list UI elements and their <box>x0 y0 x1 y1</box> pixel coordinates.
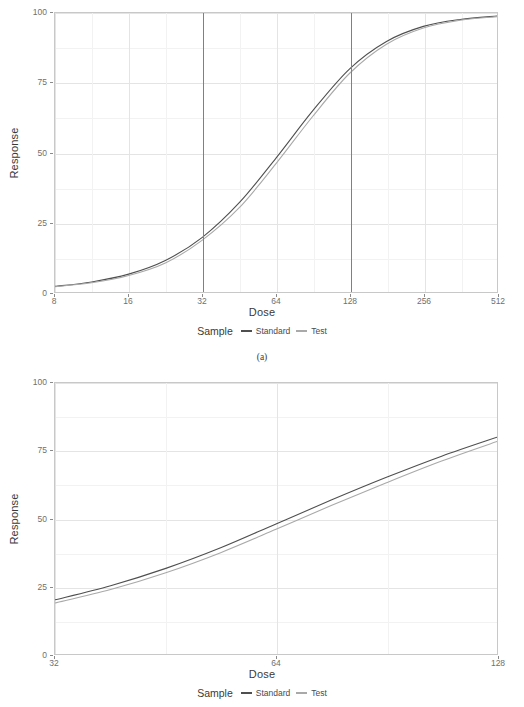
y-tick-label: 100 <box>33 377 47 387</box>
x-tick-label: 16 <box>123 296 132 306</box>
x-tick-label: 8 <box>52 296 57 306</box>
y-tick-mark <box>50 82 53 83</box>
legend-item-standard[interactable]: Standard <box>241 688 291 698</box>
panel-a-y-tick-labels: 0255075100 <box>0 12 54 293</box>
legend-item-label: Test <box>311 326 327 336</box>
legend-item-test[interactable]: Test <box>296 688 327 698</box>
y-tick-mark <box>50 519 53 520</box>
panel-a: Response 0255075100 8163264128256512 Dos… <box>0 0 524 352</box>
x-tick-label: 64 <box>271 658 280 668</box>
y-tick-mark <box>50 587 53 588</box>
legend-item-label: Standard <box>256 326 291 336</box>
y-tick-label: 75 <box>38 77 47 87</box>
y-tick-label: 75 <box>38 445 47 455</box>
legend-line-icon <box>241 330 252 332</box>
y-tick-label: 100 <box>33 7 47 17</box>
reference-line-32 <box>203 13 204 292</box>
x-tick-label: 32 <box>49 658 58 668</box>
reference-line-128 <box>351 13 352 292</box>
legend-line-icon <box>296 692 307 694</box>
legend-title: Sample <box>197 325 233 337</box>
panel-b: Response 0255075100 3264128 Dose SampleS… <box>0 372 524 707</box>
x-tick-label: 128 <box>343 296 357 306</box>
panel-a-curves <box>55 13 497 292</box>
panel-b-plot-area <box>54 382 498 655</box>
y-tick-mark <box>50 223 53 224</box>
panel-a-legend: SampleStandardTest <box>0 325 524 337</box>
dose-response-figure: Response 0255075100 8163264128256512 Dos… <box>0 0 524 707</box>
panel-b-x-axis-title: Dose <box>0 668 524 680</box>
x-tick-label: 64 <box>271 296 280 306</box>
y-tick-label: 50 <box>38 514 47 524</box>
series-line-standard <box>55 16 497 286</box>
x-tick-label: 512 <box>491 296 505 306</box>
legend-item-standard[interactable]: Standard <box>241 326 291 336</box>
series-line-standard <box>55 437 497 600</box>
y-tick-mark <box>50 153 53 154</box>
legend-line-icon <box>296 330 307 332</box>
series-line-test <box>55 442 497 604</box>
y-tick-label: 50 <box>38 148 47 158</box>
y-tick-label: 0 <box>42 650 47 660</box>
y-tick-label: 0 <box>42 288 47 298</box>
panel-a-caption: (a) <box>0 352 524 362</box>
y-tick-label: 25 <box>38 582 47 592</box>
legend-item-label: Test <box>311 688 327 698</box>
panel-b-y-tick-labels: 0255075100 <box>0 382 54 655</box>
legend-title: Sample <box>197 687 233 699</box>
x-tick-label: 128 <box>491 658 505 668</box>
series-line-test <box>55 17 497 287</box>
panel-a-plot-area <box>54 12 498 293</box>
y-tick-mark <box>50 450 53 451</box>
y-tick-mark <box>50 12 53 13</box>
panel-b-legend: SampleStandardTest <box>0 687 524 699</box>
legend-item-label: Standard <box>256 688 291 698</box>
y-tick-mark <box>50 655 53 656</box>
panel-a-x-axis-title: Dose <box>0 306 524 318</box>
legend-line-icon <box>241 692 252 694</box>
x-tick-label: 256 <box>417 296 431 306</box>
y-tick-mark <box>50 382 53 383</box>
x-tick-label: 32 <box>197 296 206 306</box>
legend-item-test[interactable]: Test <box>296 326 327 336</box>
y-tick-mark <box>50 293 53 294</box>
y-tick-label: 25 <box>38 218 47 228</box>
panel-b-curves <box>55 383 497 654</box>
